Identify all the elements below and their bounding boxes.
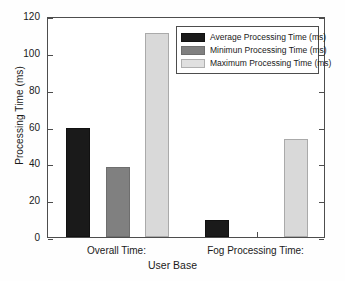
y-tick-mark xyxy=(48,92,53,93)
y-tick-mark xyxy=(319,92,324,93)
y-tick-mark xyxy=(319,129,324,130)
y-tick-label: 40 xyxy=(6,158,40,169)
y-tick-mark xyxy=(48,129,53,130)
y-tick-mark xyxy=(319,18,324,19)
legend-item[interactable]: Minimun Processing Time (ms) xyxy=(181,44,314,56)
y-axis-title: Processing Time (ms) xyxy=(14,36,25,196)
y-tick-mark xyxy=(48,239,53,240)
x-tick-mark xyxy=(257,232,258,237)
x-axis-title: User Base xyxy=(0,259,345,271)
y-tick-mark xyxy=(48,202,53,203)
x-tick-label: Fog Processing Time: xyxy=(207,245,304,256)
y-tick-mark xyxy=(48,165,53,166)
y-tick-label: 0 xyxy=(6,232,40,243)
y-tick-mark xyxy=(319,239,324,240)
legend-swatch-maximum-icon xyxy=(181,59,205,68)
legend-label: Minimun Processing Time (ms) xyxy=(210,45,327,55)
legend-swatch-average-icon xyxy=(181,33,205,42)
legend-item[interactable]: Average Processing Time (ms) xyxy=(181,31,314,43)
x-tick-label: Overall Time: xyxy=(87,245,146,256)
bar xyxy=(66,128,90,237)
bar xyxy=(284,139,308,237)
y-tick-label: 20 xyxy=(6,195,40,206)
y-tick-mark xyxy=(48,55,53,56)
legend-label: Maximum Processing Time (ms) xyxy=(210,58,331,68)
y-tick-mark xyxy=(319,202,324,203)
y-tick-label: 80 xyxy=(6,85,40,96)
bar xyxy=(205,220,229,237)
y-tick-label: 120 xyxy=(6,11,40,22)
legend-label: Average Processing Time (ms) xyxy=(210,32,326,42)
legend-swatch-minimum-icon xyxy=(181,46,205,55)
y-tick-mark xyxy=(319,165,324,166)
figure-canvas: Processing Time (ms) 020406080100120 Ove… xyxy=(0,0,345,281)
chart-legend[interactable]: Average Processing Time (ms) Minimun Pro… xyxy=(176,26,319,74)
bar xyxy=(106,167,130,237)
bar xyxy=(145,33,169,237)
y-tick-label: 60 xyxy=(6,122,40,133)
legend-item[interactable]: Maximum Processing Time (ms) xyxy=(181,57,314,69)
y-tick-mark xyxy=(48,18,53,19)
y-tick-label: 100 xyxy=(6,48,40,59)
